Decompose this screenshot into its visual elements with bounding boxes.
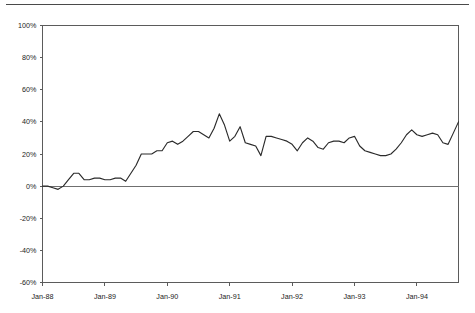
x-tick-label: Jan-93 <box>344 292 366 301</box>
y-tick-label: 60% <box>22 85 37 94</box>
y-tick-labels: 100%80%60%40%20%0%-20%-40%-60% <box>18 21 37 287</box>
y-tick-label: 0% <box>26 182 37 191</box>
y-tick-label: -40% <box>20 246 37 255</box>
x-tick-label: Jan-91 <box>219 292 241 301</box>
series-line-1 <box>43 114 459 190</box>
x-tick-label: Jan-92 <box>281 292 303 301</box>
x-tick-label: Jan-89 <box>94 292 116 301</box>
y-tick-label: 80% <box>22 53 37 62</box>
plot-frame <box>43 26 459 283</box>
x-tick-label: Jan-88 <box>32 292 54 301</box>
line-chart-plot: 100%80%60%40%20%0%-20%-40%-60% Jan-88Jan… <box>0 0 475 313</box>
y-tick-label: -20% <box>20 214 37 223</box>
chart-figure: 100%80%60%40%20%0%-20%-40%-60% Jan-88Jan… <box>0 0 475 313</box>
y-tick-label: 40% <box>22 117 37 126</box>
y-tick-label: 20% <box>22 150 37 159</box>
y-tick-label: -60% <box>20 278 37 287</box>
x-tick-label: Jan-90 <box>156 292 178 301</box>
x-tick-label: Jan-94 <box>406 292 428 301</box>
y-tick-label: 100% <box>18 21 37 30</box>
x-tick-labels: Jan-88Jan-89Jan-90Jan-91Jan-92Jan-93Jan-… <box>32 292 428 301</box>
data-series-group <box>43 114 459 190</box>
